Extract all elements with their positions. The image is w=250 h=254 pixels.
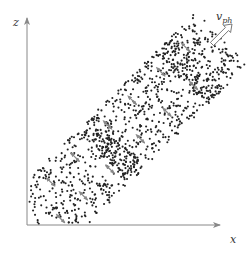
particle-dot <box>197 92 199 94</box>
particle-dot <box>221 58 223 60</box>
particle-dot <box>96 117 98 119</box>
particle-dot <box>181 42 183 44</box>
particle-dot <box>209 31 211 33</box>
particle-dot <box>146 63 148 65</box>
particle-dot <box>186 54 188 56</box>
particle-dot <box>135 110 137 112</box>
particle-dot <box>162 55 164 57</box>
particle-dot <box>118 140 120 142</box>
particle-dot <box>104 125 106 127</box>
particle-dot <box>216 93 218 95</box>
particle-dot <box>117 90 119 92</box>
particle-dot <box>37 184 39 186</box>
particle-dot <box>132 127 134 129</box>
particle-dot <box>55 176 57 178</box>
particle-dot <box>177 126 179 128</box>
particle-dot <box>32 209 34 211</box>
particle-dot <box>158 83 160 85</box>
particle-dot <box>150 128 152 130</box>
particle-dot <box>225 48 227 50</box>
particle-dot <box>59 194 61 196</box>
particle-dot <box>79 138 81 140</box>
particle-dot <box>92 176 94 178</box>
particle-dot <box>134 154 136 156</box>
particle-dot <box>133 81 135 83</box>
particle-dot <box>112 110 114 112</box>
particle-dot <box>34 184 36 186</box>
particle-dot <box>192 59 194 61</box>
particle-dot <box>186 61 188 63</box>
particle-dot <box>105 104 107 106</box>
particle-dot <box>61 168 63 170</box>
particle-dot <box>185 29 187 31</box>
particle-dot <box>48 173 50 175</box>
particle-dot <box>152 147 154 149</box>
particle-dot <box>200 89 202 91</box>
particle-dot <box>74 204 76 206</box>
particle-dot <box>59 214 61 216</box>
particle-dot <box>147 65 149 67</box>
particle-dot <box>115 115 117 117</box>
particle-dot <box>33 176 35 178</box>
particle-dot <box>46 206 48 208</box>
particle-dot <box>100 135 102 137</box>
particle-dot <box>204 57 206 59</box>
particle-dot <box>235 52 237 54</box>
particle-dot <box>187 105 189 107</box>
particle-dot <box>151 105 153 107</box>
particle-dot <box>214 94 216 96</box>
particle-dot <box>178 118 180 120</box>
particle-dot <box>137 113 139 115</box>
particle-dot <box>29 201 31 203</box>
particle-dot <box>145 157 147 159</box>
particle-dot <box>52 187 54 189</box>
particle-dot <box>133 105 135 107</box>
particle-dot <box>93 124 95 126</box>
particle-dot <box>194 103 196 105</box>
particle-dot <box>66 163 68 165</box>
particle-dot <box>117 107 119 109</box>
particle-dot <box>184 67 186 69</box>
particle-dot <box>196 33 198 35</box>
particle-dot <box>32 193 34 195</box>
particle-dot <box>173 33 175 35</box>
particle-dot <box>179 120 181 122</box>
particle-dot <box>186 65 188 67</box>
particle-dot <box>178 91 180 93</box>
particle-dot <box>136 156 138 158</box>
particle-dot <box>194 38 196 40</box>
particle-dot <box>101 146 103 148</box>
particle-dot <box>90 201 92 203</box>
particle-dot <box>149 78 151 80</box>
particle-dot <box>124 147 126 149</box>
particle-dot <box>188 118 190 120</box>
particle-dot <box>174 45 176 47</box>
particle-dot <box>193 23 195 25</box>
particle-dot <box>130 169 132 171</box>
particle-dot <box>99 185 101 187</box>
particle-dot <box>186 69 188 71</box>
particle-dot <box>189 115 191 117</box>
particle-dot <box>168 107 170 109</box>
phase-velocity-label: vph <box>216 10 233 25</box>
particle-dot <box>38 197 40 199</box>
particle-dot <box>159 112 161 114</box>
particle-dot <box>181 60 183 62</box>
particle-dot <box>113 162 115 164</box>
particle-dot <box>126 178 128 180</box>
particle-dot <box>182 67 184 69</box>
particle-dot <box>145 125 147 127</box>
particle-dot <box>172 59 174 61</box>
particle-dot <box>114 161 116 163</box>
particle-dot <box>206 97 208 99</box>
particle-dot <box>98 120 100 122</box>
particle-dot <box>122 173 124 175</box>
particle-dot <box>113 192 115 194</box>
particle-dot <box>168 139 170 141</box>
particle-dot <box>129 117 131 119</box>
particle-dot <box>132 163 134 165</box>
particle-dot <box>163 48 165 50</box>
particle-dot <box>188 92 190 94</box>
particle-dot <box>84 134 86 136</box>
particle-dot <box>168 105 170 107</box>
